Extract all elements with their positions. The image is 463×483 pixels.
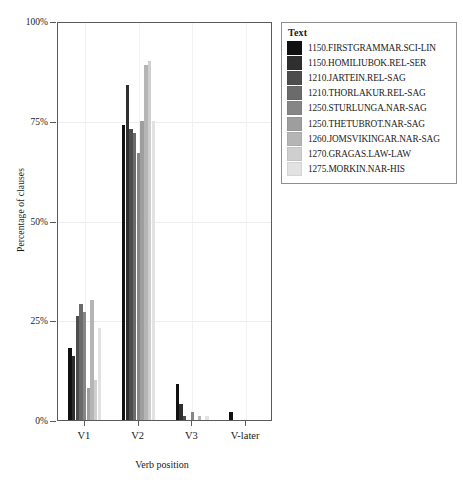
x-tick-mark	[84, 421, 85, 426]
plot-area	[57, 22, 272, 421]
x-tick-mark	[245, 421, 246, 426]
category-gridline	[246, 23, 247, 420]
legend-color-swatch	[287, 71, 302, 85]
legend: Text 1150.FIRSTGRAMMAR.SCI-LIN1150.HOMIL…	[281, 22, 457, 184]
y-tick-mark	[50, 321, 56, 322]
legend-item-label: 1250.THETUBROT.NAR-SAG	[308, 119, 425, 129]
y-tick-label: 0%	[4, 416, 48, 426]
legend-item-label: 1270.GRAGAS.LAW-LAW	[308, 149, 411, 159]
y-tick-label: 75%	[4, 117, 48, 127]
legend-item-label: 1150.FIRSTGRAMMAR.SCI-LIN	[308, 43, 436, 53]
y-tick-label: 100%	[4, 17, 48, 27]
legend-item: 1210.JARTEIN.REL-SAG	[287, 70, 451, 85]
legend-color-swatch	[287, 101, 302, 115]
legend-item: 1275.MORKIN.NAR-HIS	[287, 162, 451, 177]
legend-color-swatch	[287, 132, 302, 146]
legend-item: 1250.STURLUNGA.NAR-SAG	[287, 101, 451, 116]
gridline	[58, 122, 271, 123]
y-axis-title: Percentage of clauses	[16, 125, 26, 295]
x-tick-mark	[191, 421, 192, 426]
bar	[205, 416, 208, 420]
x-tick-mark	[138, 421, 139, 426]
legend-color-swatch	[287, 41, 302, 55]
legend-item-label: 1260.JOMSVIKINGAR.NAR-SAG	[308, 134, 440, 144]
legend-item: 1250.THETUBROT.NAR-SAG	[287, 116, 451, 131]
gridline	[58, 22, 271, 23]
legend-item: 1210.THORLAKUR.REL-SAG	[287, 86, 451, 101]
legend-item: 1260.JOMSVIKINGAR.NAR-SAG	[287, 131, 451, 146]
legend-title: Text	[288, 27, 451, 38]
bar	[229, 412, 232, 420]
legend-item-label: 1275.MORKIN.NAR-HIS	[308, 164, 405, 174]
legend-item-label: 1250.STURLUNGA.NAR-SAG	[308, 103, 427, 113]
legend-item-label: 1210.THORLAKUR.REL-SAG	[308, 88, 426, 98]
gridline	[58, 222, 271, 223]
y-tick-mark	[50, 122, 56, 123]
y-tick-mark	[50, 22, 56, 23]
legend-color-swatch	[287, 86, 302, 100]
legend-entries: 1150.FIRSTGRAMMAR.SCI-LIN1150.HOMILIUBOK…	[287, 40, 451, 177]
y-tick-mark	[50, 421, 56, 422]
category-gridline	[192, 23, 193, 420]
y-tick-mark	[50, 222, 56, 223]
legend-color-swatch	[287, 162, 302, 176]
bar	[98, 328, 101, 420]
bar	[152, 121, 155, 420]
bar	[191, 412, 194, 420]
bar	[183, 416, 186, 420]
legend-item: 1270.GRAGAS.LAW-LAW	[287, 146, 451, 161]
x-tick-label: V-later	[210, 430, 280, 441]
legend-item-label: 1150.HOMILIUBOK.REL-SER	[308, 58, 426, 68]
legend-color-swatch	[287, 147, 302, 161]
legend-item: 1150.FIRSTGRAMMAR.SCI-LIN	[287, 40, 451, 55]
legend-item: 1150.HOMILIUBOK.REL-SER	[287, 55, 451, 70]
legend-color-swatch	[287, 117, 302, 131]
bar	[198, 416, 201, 420]
y-tick-label: 50%	[4, 217, 48, 227]
legend-item-label: 1210.JARTEIN.REL-SAG	[308, 73, 406, 83]
y-tick-label: 25%	[4, 316, 48, 326]
legend-color-swatch	[287, 56, 302, 70]
x-axis-title: Verb position	[48, 459, 276, 470]
chart-figure: Percentage of clauses 0%25%50%75%100% V1…	[0, 0, 463, 483]
